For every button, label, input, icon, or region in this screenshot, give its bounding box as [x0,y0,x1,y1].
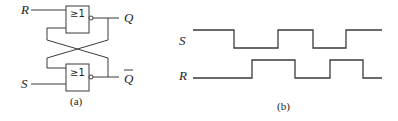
label-r-input: R [20,2,29,17]
bottom-gate-inversion-bubble [89,75,93,79]
bottom-gate-symbol: ≥1 [70,67,85,78]
waveform-s [193,30,382,48]
waveform-r [193,60,382,78]
caption-b: (b) [277,100,290,113]
label-qbar-output: Q [124,71,134,86]
label-s-signal: S [179,33,186,48]
diagram-canvas: R ≥1 Q ≥1 Q S (a) S R (b) [0,0,398,121]
label-s-input: S [21,76,28,91]
label-q-output: Q [124,10,134,25]
timing-diagram: S R (b) [178,30,382,113]
top-gate-inversion-bubble [89,16,93,20]
top-gate-symbol: ≥1 [70,8,85,19]
nor-latch-circuit: R ≥1 Q ≥1 Q S (a) [20,2,134,108]
label-r-signal: R [178,68,187,83]
caption-a: (a) [70,95,83,108]
